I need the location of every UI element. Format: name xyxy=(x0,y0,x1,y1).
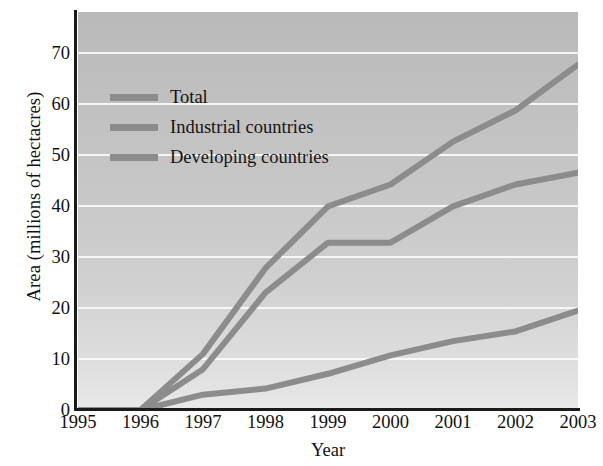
x-tick-label-2001: 2001 xyxy=(418,412,488,433)
y-tick-label-20: 20 xyxy=(12,297,70,318)
x-tick-label-1998: 1998 xyxy=(231,412,301,433)
x-tick-label-1997: 1997 xyxy=(168,412,238,433)
x-axis-tick-labels: 199519961997199819992000200120022003 xyxy=(0,412,603,442)
legend-item-developing-countries: Developing countries xyxy=(110,144,410,170)
legend-swatch-icon xyxy=(110,124,158,131)
data-series-lines xyxy=(78,12,578,410)
chart-legend: TotalIndustrial countriesDeveloping coun… xyxy=(110,84,410,174)
x-tick-label-1996: 1996 xyxy=(106,412,176,433)
plot-area xyxy=(78,12,578,410)
x-tick-label-2003: 2003 xyxy=(543,412,603,433)
legend-item-industrial-countries: Industrial countries xyxy=(110,114,410,140)
x-axis-line xyxy=(74,408,580,411)
y-tick-label-40: 40 xyxy=(12,195,70,216)
legend-swatch-icon xyxy=(110,154,158,161)
x-tick-label-1999: 1999 xyxy=(293,412,363,433)
y-tick-label-30: 30 xyxy=(12,246,70,267)
x-axis-title: Year xyxy=(78,440,578,461)
y-tick-label-10: 10 xyxy=(12,348,70,369)
legend-label: Total xyxy=(170,87,208,108)
x-tick-label-2000: 2000 xyxy=(356,412,426,433)
x-tick-label-2002: 2002 xyxy=(481,412,551,433)
legend-label: Developing countries xyxy=(170,147,329,168)
legend-item-total: Total xyxy=(110,84,410,110)
legend-label: Industrial countries xyxy=(170,117,313,138)
line-chart-figure: Area (millions of hectacres) 01020304050… xyxy=(0,0,603,466)
y-tick-label-70: 70 xyxy=(12,42,70,63)
y-axis-tick-labels: 010203040506070 xyxy=(12,0,70,466)
y-tick-label-60: 60 xyxy=(12,93,70,114)
legend-swatch-icon xyxy=(110,94,158,101)
y-axis-line xyxy=(74,10,77,410)
x-tick-label-1995: 1995 xyxy=(43,412,113,433)
y-tick-label-50: 50 xyxy=(12,144,70,165)
